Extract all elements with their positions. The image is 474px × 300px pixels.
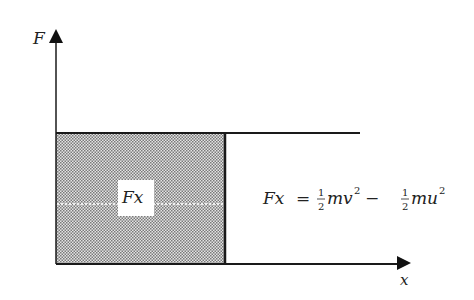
work-energy-equation: Fx = 1 2 mv 2 − 1 2 mu 2 — [262, 185, 445, 212]
x-axis-label: x — [400, 271, 409, 289]
term2-variable: mu — [411, 188, 438, 208]
term2-exponent: 2 — [439, 185, 445, 196]
term1-variable: mv — [327, 188, 353, 208]
term1-exponent: 2 — [354, 185, 360, 196]
fraction2-numerator: 1 — [402, 187, 408, 198]
y-axis-arrow-icon — [49, 29, 63, 43]
fraction1-denominator: 2 — [318, 201, 324, 212]
force-displacement-diagram: Fx F x Fx = 1 2 mv 2 − 1 2 mu 2 — [0, 0, 474, 300]
fraction2-denominator: 2 — [402, 201, 408, 212]
area-label: Fx — [121, 187, 144, 207]
y-axis-label: F — [32, 28, 46, 48]
fraction1-numerator: 1 — [318, 187, 324, 198]
equation-lhs: Fx — [262, 188, 285, 208]
equation-equals: = — [296, 188, 310, 208]
equation-minus: − — [365, 188, 379, 208]
x-axis-arrow-icon — [397, 256, 411, 270]
